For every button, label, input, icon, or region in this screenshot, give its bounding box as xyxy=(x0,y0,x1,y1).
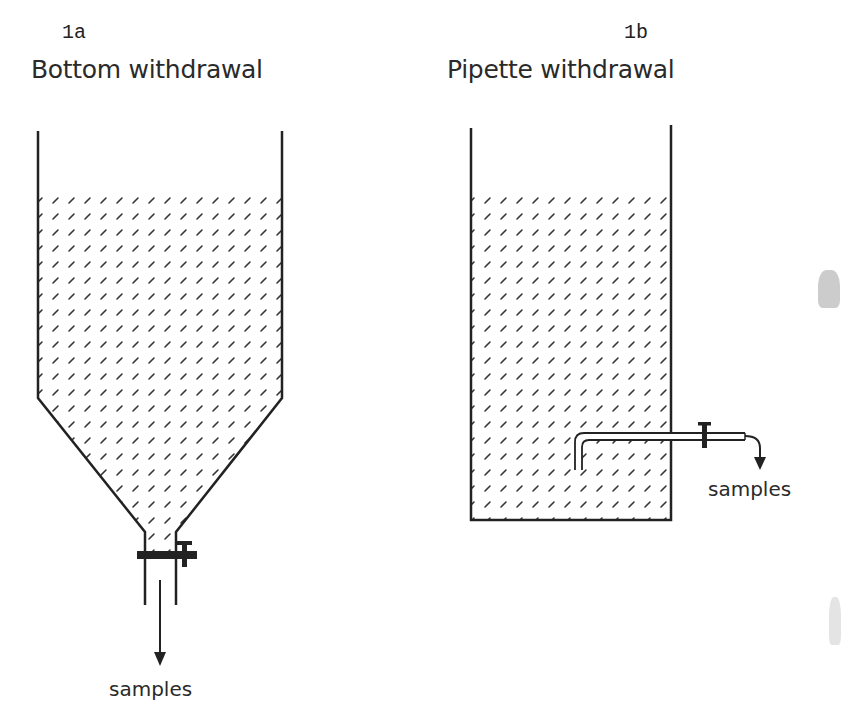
scan-artifact xyxy=(829,597,841,645)
arrow-head-icon xyxy=(754,457,766,470)
liquid-hatch-right xyxy=(471,195,670,519)
pipette-withdrawal-vessel xyxy=(471,125,766,520)
samples-label-1a: samples xyxy=(109,677,192,701)
valve-bar xyxy=(137,551,197,559)
pipette-valve-stem xyxy=(702,424,707,448)
valve-stem xyxy=(182,543,187,567)
samples-label-1b: samples xyxy=(708,477,791,501)
bottom-withdrawal-vessel xyxy=(30,131,290,666)
samples-arrow-right xyxy=(745,436,760,458)
pipette-valve-handle xyxy=(698,422,711,426)
sedimentation-diagram xyxy=(0,0,861,717)
liquid-hatch-left xyxy=(30,195,290,560)
valve-handle xyxy=(177,541,192,545)
scan-artifact xyxy=(818,270,840,308)
arrow-head-icon xyxy=(154,652,166,666)
